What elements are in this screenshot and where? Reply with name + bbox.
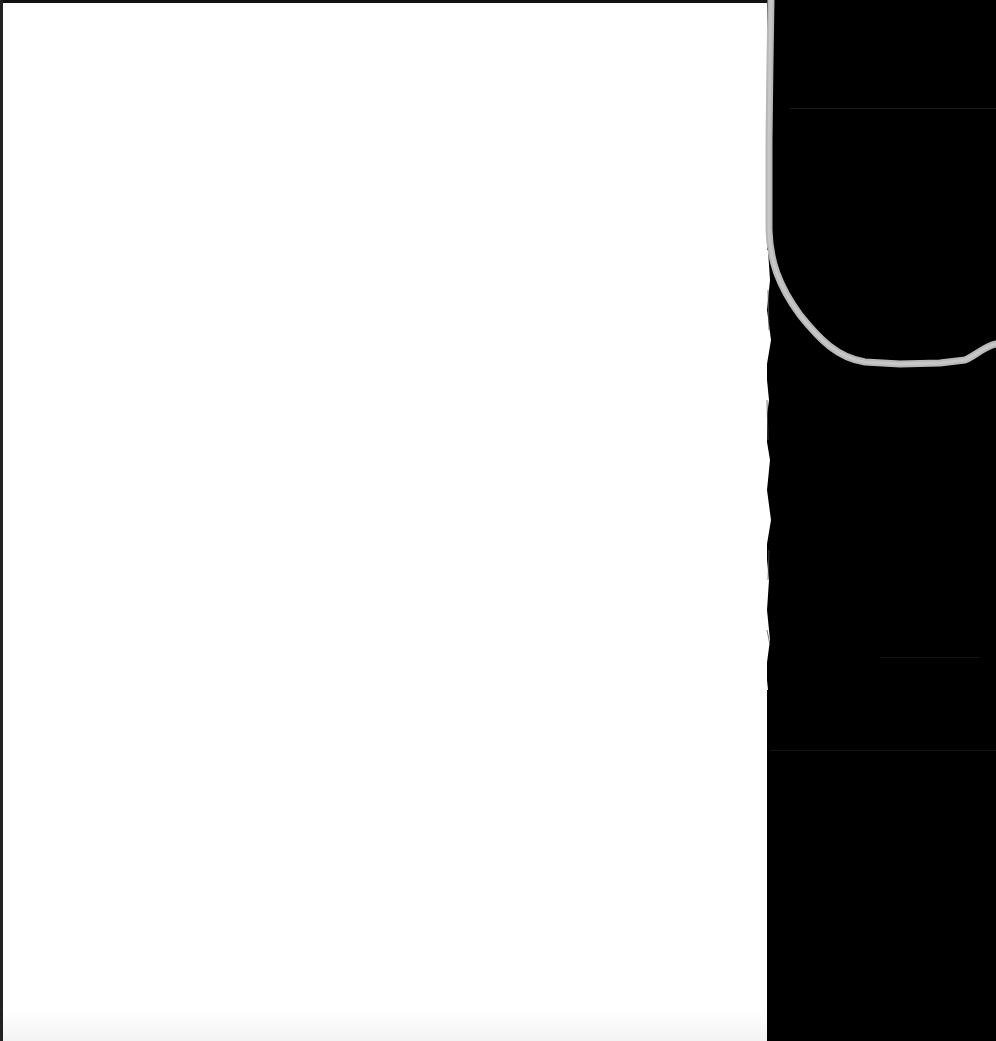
blank-paper-page bbox=[3, 3, 767, 1041]
scanned-image bbox=[0, 0, 996, 1041]
scanner-artifact-line bbox=[880, 657, 980, 658]
scanner-artifact-line bbox=[770, 750, 996, 751]
scanner-artifact-line bbox=[790, 108, 996, 109]
deckled-paper-edge bbox=[764, 250, 772, 690]
page-bottom-shade bbox=[3, 1011, 767, 1041]
